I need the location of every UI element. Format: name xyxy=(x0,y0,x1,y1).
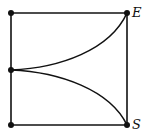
label-s: S xyxy=(132,117,141,130)
label-e: E xyxy=(131,5,142,20)
node-top-right xyxy=(124,10,130,16)
node-top-left xyxy=(8,10,14,16)
node-bottom-left xyxy=(8,122,14,128)
node-mid-left xyxy=(8,67,14,73)
node-bottom-right xyxy=(124,122,130,128)
edge-curve-to-s xyxy=(11,70,127,125)
edge-curve-to-e xyxy=(11,13,127,70)
graph-diagram: E S xyxy=(0,0,143,130)
